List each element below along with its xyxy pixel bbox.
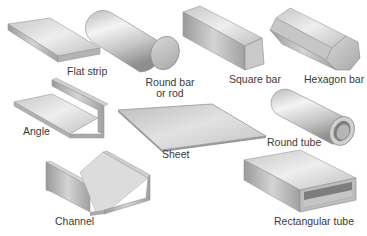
- label-flat-strip: Flat strip: [67, 66, 107, 77]
- label-round-bar-line2: or rod: [140, 88, 200, 99]
- metal-shapes-diagram: Flat strip Round bar or rod Square bar H…: [0, 0, 367, 236]
- rectangular-tube-shape: [244, 150, 356, 212]
- label-round-tube: Round tube: [267, 137, 321, 148]
- shapes-illustration: [0, 0, 367, 236]
- channel-shape: [46, 151, 150, 216]
- label-channel: Channel: [55, 216, 94, 227]
- sheet-shape: [118, 104, 266, 152]
- label-angle: Angle: [23, 126, 50, 137]
- label-square-bar: Square bar: [229, 74, 281, 85]
- hexagon-bar-shape: [270, 8, 360, 70]
- label-round-bar: Round bar or rod: [140, 77, 200, 99]
- square-bar-shape: [183, 6, 264, 70]
- label-hexagon-bar: Hexagon bar: [304, 74, 364, 85]
- label-sheet: Sheet: [162, 149, 189, 160]
- label-rectangular-tube: Rectangular tube: [274, 216, 354, 227]
